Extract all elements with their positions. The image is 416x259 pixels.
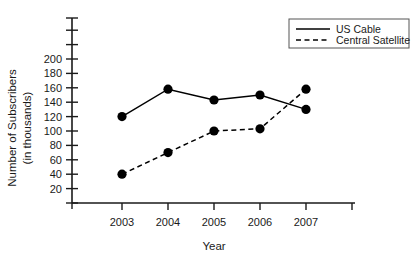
data-point-us-cable-2006 — [255, 90, 264, 99]
y-tick-label-120: 120 — [44, 111, 62, 123]
data-point-central-satellite-2007 — [301, 85, 310, 94]
x-tick-label-2006: 2006 — [248, 216, 272, 228]
data-point-us-cable-2004 — [163, 85, 172, 94]
x-axis-ticks: 2003 2004 2005 2006 2007 — [72, 203, 352, 228]
legend: US Cable Central Satellite — [289, 19, 410, 48]
y-axis-title-line1: Number of Subscribers — [6, 69, 18, 187]
y-tick-label-200: 200 — [44, 53, 62, 65]
y-axis-title-line2: (in thousands) — [21, 91, 33, 164]
x-tick-label-2003: 2003 — [110, 216, 134, 228]
x-tick-label-2004: 2004 — [156, 216, 180, 228]
data-point-central-satellite-2003 — [117, 170, 126, 179]
y-tick-label-20: 20 — [50, 183, 62, 195]
y-axis-ticks: 20 40 60 80 100 120 140 160 180 200 — [44, 18, 78, 203]
line-chart: Number of Subscribers (in thousands) 20 … — [0, 0, 416, 259]
y-tick-label-60: 60 — [50, 154, 62, 166]
data-point-central-satellite-2005 — [209, 126, 218, 135]
y-tick-label-180: 180 — [44, 67, 62, 79]
data-point-us-cable-2007 — [301, 105, 310, 114]
legend-label-central-satellite: Central Satellite — [336, 34, 410, 46]
data-point-central-satellite-2006 — [255, 124, 264, 133]
data-point-central-satellite-2004 — [163, 148, 172, 157]
series-us-cable — [117, 85, 310, 122]
chart-canvas: Number of Subscribers (in thousands) 20 … — [0, 0, 416, 259]
y-tick-label-40: 40 — [50, 168, 62, 180]
y-axis-title: Number of Subscribers (in thousands) — [6, 69, 33, 187]
y-tick-label-80: 80 — [50, 139, 62, 151]
x-tick-label-2005: 2005 — [202, 216, 226, 228]
x-tick-label-2007: 2007 — [294, 216, 318, 228]
y-tick-label-100: 100 — [44, 125, 62, 137]
data-point-us-cable-2005 — [209, 95, 218, 104]
data-point-us-cable-2003 — [117, 112, 126, 121]
x-axis-title: Year — [202, 240, 225, 252]
y-tick-label-160: 160 — [44, 82, 62, 94]
y-tick-label-140: 140 — [44, 96, 62, 108]
